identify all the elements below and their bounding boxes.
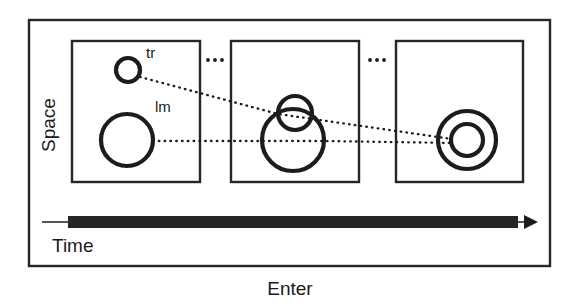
panel-2-box [231, 41, 359, 182]
time-axis-label: Time [52, 235, 94, 256]
enter-diagram: Space tr lm [0, 0, 580, 308]
time-axis-arrowhead [524, 215, 538, 229]
figure-caption: Enter [267, 278, 313, 299]
figure-stage: Space tr lm [0, 0, 580, 308]
time-axis-bar [68, 216, 518, 228]
trajector-symbol-label: tr [146, 44, 155, 61]
ellipsis-2 [368, 58, 386, 62]
ellipsis-1 [206, 58, 224, 62]
landmark-symbol-label: lm [155, 98, 171, 115]
time-axis [42, 215, 538, 229]
space-axis-label: Space [38, 98, 59, 152]
